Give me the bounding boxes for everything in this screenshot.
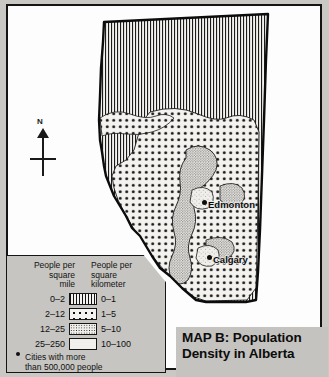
map-title-line2: Density in Alberta	[182, 346, 328, 362]
legend-row: 0–2 0–1	[11, 292, 161, 306]
legend-value-kilometer: 1–5	[101, 307, 116, 321]
map-legend: People per square mile People per square…	[6, 255, 166, 373]
legend-value-mile: 12–25	[11, 322, 65, 336]
city-dot-icon	[207, 255, 212, 260]
north-arrow-crossbar	[30, 158, 56, 160]
city-label-calgary: Calgary	[213, 254, 248, 265]
legend-value-kilometer: 10–100	[101, 337, 131, 351]
legend-swatch-large-dots	[69, 308, 97, 320]
legend-value-kilometer: 5–10	[101, 322, 121, 336]
map-title-line1: MAP B: Population	[182, 330, 328, 346]
legend-city-dot-icon	[16, 352, 20, 356]
legend-row: 2–12 1–5	[11, 307, 161, 321]
legend-swatch-light-stipple	[69, 338, 97, 350]
city-dot-icon	[202, 200, 207, 205]
north-arrow-shaft	[42, 132, 44, 176]
legend-header-kilometer: People per square kilometer	[91, 261, 157, 290]
map-title: MAP B: Population Density in Alberta	[182, 330, 328, 362]
map-figure: N Edmonton Calgary People per square mil…	[0, 0, 329, 377]
legend-header-mile: People per square mile	[11, 261, 75, 290]
legend-swatch-vertical-lines	[69, 293, 97, 305]
north-arrow: N	[26, 122, 60, 178]
north-label: N	[37, 117, 43, 126]
legend-value-mile: 25–250	[11, 337, 65, 351]
city-label-edmonton: Edmonton	[208, 199, 255, 210]
legend-value-mile: 0–2	[11, 292, 65, 306]
legend-city-note: Cities with more than 500,000 people	[25, 352, 165, 372]
legend-value-kilometer: 0–1	[101, 292, 116, 306]
legend-row: 12–25 5–10	[11, 322, 161, 336]
legend-swatch-fine-stipple	[69, 323, 97, 335]
legend-value-mile: 2–12	[11, 307, 65, 321]
legend-row: 25–250 10–100	[11, 337, 161, 351]
